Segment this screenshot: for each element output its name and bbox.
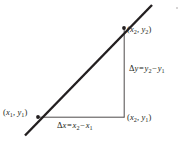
label-point-x1-y1-sub2: 1 <box>21 111 24 118</box>
point-marker-x1y1 <box>36 115 40 119</box>
label-point-x2-y1-sub2: 1 <box>145 116 148 123</box>
scan-artifact-speck <box>176 7 178 9</box>
label-point-x2-y2-sub1: 2 <box>134 28 137 35</box>
annotation-delta-x-term2-sub: 1 <box>90 124 93 131</box>
label-point-x1-y1: (x1, y1) <box>3 108 27 117</box>
annotation-delta-y-term2-var: y <box>158 63 162 73</box>
annotation-delta-x-term1-sub: 2 <box>76 124 79 131</box>
label-point-x2-y1-sub1: 2 <box>134 116 137 123</box>
label-point-x2-y2: (x2, y2) <box>127 25 151 34</box>
annotation-delta-y-term2-sub: 1 <box>162 67 165 74</box>
label-point-x2-y1: (x2, y1) <box>127 113 151 122</box>
annotation-delta-x: Δx=x2−x1 <box>57 121 93 130</box>
label-point-x2-y2-sub2: 2 <box>145 28 148 35</box>
point-marker-x2y2 <box>122 26 126 30</box>
annotation-delta-y: Δy=y2−y1 <box>129 64 165 73</box>
annotation-delta-x-term2-var: x <box>86 120 90 130</box>
annotation-delta-y-term1-sub: 2 <box>148 67 151 74</box>
label-point-x1-y1-sub1: 1 <box>10 111 13 118</box>
